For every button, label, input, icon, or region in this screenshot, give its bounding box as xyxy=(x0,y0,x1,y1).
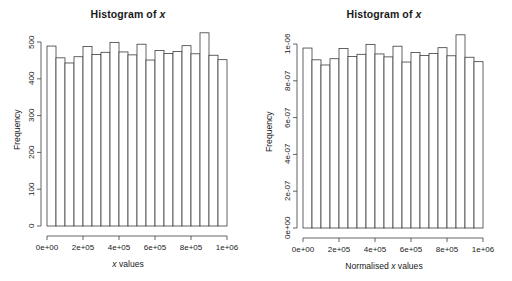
histogram-bar xyxy=(209,55,218,226)
x-tick-label: 2e+05 xyxy=(72,243,94,252)
y-tick-label-text: 4e-07 xyxy=(283,144,292,164)
histogram-bar xyxy=(137,44,146,226)
y-tick-label-text: 0 xyxy=(27,224,36,228)
x-tick-label: 6e+05 xyxy=(400,245,422,254)
histogram-bar xyxy=(438,48,447,228)
y-tick-label-text: 400 xyxy=(27,72,36,85)
histogram-bar xyxy=(321,65,330,228)
x-tick-label: 0e+00 xyxy=(292,245,314,254)
histogram-bar xyxy=(312,60,321,228)
x-axis-title-right-prefix: Normalised xyxy=(345,261,391,271)
bars-right xyxy=(303,35,483,228)
y-axis-title-left: Frequency xyxy=(12,109,22,150)
y-tick-label-text: 200 xyxy=(27,146,36,159)
histogram-bar xyxy=(357,54,366,228)
histogram-bar xyxy=(128,55,137,226)
histogram-bar xyxy=(83,46,92,226)
histogram-bar xyxy=(47,46,56,226)
histogram-bar xyxy=(200,33,209,226)
bars-left xyxy=(47,33,227,226)
plot-svg-left xyxy=(0,0,256,281)
x-axis-title-left-suffix: values xyxy=(117,259,144,269)
plot-svg-right xyxy=(256,0,512,281)
x-axis-title-right: Normalised x values xyxy=(256,261,512,271)
histogram-bar xyxy=(384,57,393,228)
x-axis-title-right-suffix: values xyxy=(395,261,422,271)
histogram-bar xyxy=(330,59,339,228)
histogram-bar xyxy=(110,42,119,226)
histogram-bar xyxy=(456,35,465,228)
histogram-bar xyxy=(303,48,312,228)
histogram-bar xyxy=(411,52,420,228)
histogram-bar xyxy=(366,44,375,228)
x-tick-label: 4e+05 xyxy=(108,243,130,252)
y-tick-label-text: 1e-06 xyxy=(283,34,292,54)
histogram-bar xyxy=(402,62,411,228)
x-tick-label: 8e+05 xyxy=(180,243,202,252)
histogram-bar xyxy=(74,57,83,226)
histogram-bar xyxy=(119,52,128,226)
histogram-panel-right: Histogram of x 0e+002e+054e+056e+058e+05… xyxy=(256,0,512,281)
histogram-bar xyxy=(393,46,402,228)
y-tick-label-text: 500 xyxy=(27,35,36,48)
histogram-bar xyxy=(146,60,155,226)
histogram-bar xyxy=(474,62,483,228)
y-tick-label-text: 0e+00 xyxy=(283,217,292,239)
histogram-bar xyxy=(191,54,200,226)
histogram-bar xyxy=(420,55,429,228)
x-axis-title-left: x values xyxy=(0,259,256,269)
histogram-bar xyxy=(348,57,357,228)
histogram-bar xyxy=(182,46,191,226)
histogram-bar xyxy=(155,50,164,226)
x-tick-label: 1e+06 xyxy=(216,243,238,252)
x-tick-label: 6e+05 xyxy=(144,243,166,252)
histogram-bar xyxy=(429,54,438,228)
y-tick-label-text: 8e-07 xyxy=(283,70,292,90)
histogram-bar xyxy=(339,48,348,228)
x-tick-label: 8e+05 xyxy=(436,245,458,254)
y-axis-title-right: Frequency xyxy=(264,111,274,152)
y-tick-label-text: 100 xyxy=(27,182,36,195)
histogram-panel-left: Histogram of x 0e+002e+054e+056e+058e+05… xyxy=(0,0,256,281)
histogram-bar xyxy=(447,56,456,228)
plot-area-left xyxy=(0,0,256,281)
y-tick-label-text: 300 xyxy=(27,109,36,122)
histogram-bar xyxy=(465,57,474,228)
plot-area-right xyxy=(256,0,512,281)
histogram-bar xyxy=(164,53,173,226)
y-tick-label-text: 2e-07 xyxy=(283,181,292,201)
y-tick-label-text: 6e-07 xyxy=(283,107,292,127)
histogram-bar xyxy=(101,52,110,226)
histogram-figure: Histogram of x 0e+002e+054e+056e+058e+05… xyxy=(0,0,512,281)
x-tick-label: 1e+06 xyxy=(472,245,494,254)
x-tick-label: 4e+05 xyxy=(364,245,386,254)
histogram-bar xyxy=(218,60,227,226)
histogram-bar xyxy=(92,55,101,226)
histogram-bar xyxy=(173,52,182,226)
x-tick-label: 2e+05 xyxy=(328,245,350,254)
histogram-bar xyxy=(375,54,384,228)
histogram-bar xyxy=(65,63,74,226)
x-tick-label: 0e+00 xyxy=(36,243,58,252)
histogram-bar xyxy=(56,58,65,226)
